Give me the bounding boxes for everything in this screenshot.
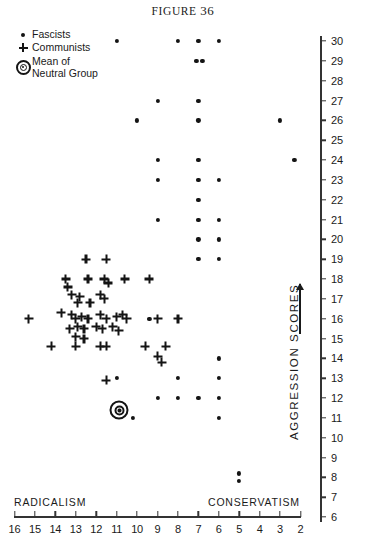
data-point-communist	[24, 314, 33, 323]
x-axis-tick-label: 9	[155, 523, 161, 535]
y-axis-tick	[320, 278, 326, 279]
data-point-communist	[73, 298, 82, 307]
y-axis-tick-label: 27	[331, 95, 343, 107]
data-point-communist	[102, 342, 111, 351]
x-axis-tick-label: 12	[90, 523, 102, 535]
y-axis-tick	[320, 516, 326, 517]
y-axis-tick	[320, 100, 326, 101]
data-point-fascist	[155, 217, 159, 221]
data-point-communist	[173, 314, 182, 323]
x-axis-tick-label: 6	[216, 523, 222, 535]
data-point-fascist	[217, 39, 221, 43]
y-axis-tick	[320, 298, 326, 299]
y-axis-tick	[320, 338, 326, 339]
y-axis-tick-label: 20	[331, 233, 343, 245]
legend: Fascists Communists Mean of Neutral Grou…	[14, 28, 144, 79]
data-point-fascist	[217, 396, 221, 400]
y-axis-tick-label: 19	[331, 253, 343, 265]
data-point-communist	[79, 324, 88, 333]
y-axis-tick-label: 11	[331, 412, 342, 424]
y-axis-tick	[320, 219, 326, 220]
y-axis-tick	[320, 199, 326, 200]
y-axis-tick-label: 26	[331, 114, 343, 126]
x-axis-tick	[279, 511, 280, 517]
data-point-fascist	[217, 178, 221, 182]
data-point-fascist	[196, 178, 200, 182]
legend-label-communists: Communists	[32, 41, 90, 54]
legend-label-neutral-mean-line1: Mean of	[32, 55, 70, 67]
y-axis-tick	[320, 496, 326, 497]
legend-label-neutral-mean-line2: Neutral Group	[32, 67, 98, 79]
plus-marker-icon	[14, 41, 32, 54]
data-point-communist	[79, 334, 88, 343]
data-point-communist	[114, 326, 123, 335]
data-point-fascist	[155, 396, 159, 400]
x-axis-left-label: RADICALISM	[14, 496, 86, 508]
x-axis-tick-label: 5	[236, 523, 242, 535]
data-point-neutral-mean	[109, 400, 128, 419]
x-axis-tick-label: 13	[70, 523, 82, 535]
y-axis-tick	[320, 80, 326, 81]
data-point-fascist	[278, 118, 282, 122]
y-axis-tick-label: 8	[331, 471, 337, 483]
data-point-fascist	[237, 471, 241, 475]
data-point-communist	[71, 342, 80, 351]
data-point-fascist	[196, 118, 200, 122]
y-axis-tick-label: 24	[331, 154, 343, 166]
data-point-communist	[86, 298, 95, 307]
x-axis-tick-label: 16	[9, 523, 21, 535]
data-point-fascist	[196, 39, 200, 43]
x-axis-tick	[55, 511, 56, 517]
y-axis-tick-label: 21	[331, 214, 343, 226]
x-axis-tick	[96, 511, 97, 517]
data-point-fascist	[176, 396, 180, 400]
x-axis-tick-label: 15	[29, 523, 41, 535]
x-axis-tick	[259, 511, 260, 517]
x-axis-tick-label: 3	[277, 523, 283, 535]
x-axis-tick	[116, 511, 117, 517]
legend-item-fascists: Fascists	[14, 28, 144, 41]
data-point-communist	[161, 342, 170, 351]
y-axis-tick-label: 23	[331, 174, 343, 186]
y-axis-tick	[320, 457, 326, 458]
data-point-fascist	[196, 198, 200, 202]
y-axis-tick-label: 18	[331, 273, 343, 285]
y-axis-tick	[320, 258, 326, 259]
data-point-fascist	[196, 158, 200, 162]
y-axis-tick-label: 16	[331, 313, 343, 325]
y-axis-tick-label: 17	[331, 293, 343, 305]
y-axis-tick	[320, 239, 326, 240]
y-axis-tick-label: 28	[331, 75, 343, 87]
y-axis-tick-label: 15	[331, 333, 343, 345]
y-axis-tick	[320, 397, 326, 398]
data-point-communist	[82, 255, 91, 264]
x-axis-tick-label: 7	[195, 523, 201, 535]
x-axis-tick	[198, 511, 199, 517]
scatter-plot-area: Fascists Communists Mean of Neutral Grou…	[0, 0, 366, 549]
data-point-fascist	[237, 479, 241, 483]
data-point-fascist	[217, 376, 221, 380]
x-axis-tick	[218, 511, 219, 517]
data-point-communist	[157, 358, 166, 367]
y-axis-tick-label: 30	[331, 35, 343, 47]
x-axis-tick-label: 10	[131, 523, 143, 535]
data-point-communist	[153, 314, 162, 323]
x-axis-tick	[239, 511, 240, 517]
y-axis-tick	[320, 477, 326, 478]
x-axis-tick	[136, 511, 137, 517]
data-point-communist	[47, 342, 56, 351]
bullseye-marker-icon	[14, 55, 32, 79]
x-axis-tick	[177, 511, 178, 517]
data-point-fascist	[155, 178, 159, 182]
data-point-fascist	[217, 257, 221, 261]
x-axis-tick-label: 11	[111, 523, 122, 535]
y-axis-tick	[320, 40, 326, 41]
data-point-communist	[122, 314, 131, 323]
y-axis-tick-label: 22	[331, 194, 343, 206]
y-axis-tick	[320, 159, 326, 160]
y-axis-tick-label: 29	[331, 55, 343, 67]
data-point-communist	[84, 275, 93, 284]
y-axis-tick	[320, 417, 326, 418]
data-point-communist	[98, 324, 107, 333]
x-axis-tick	[14, 511, 15, 517]
